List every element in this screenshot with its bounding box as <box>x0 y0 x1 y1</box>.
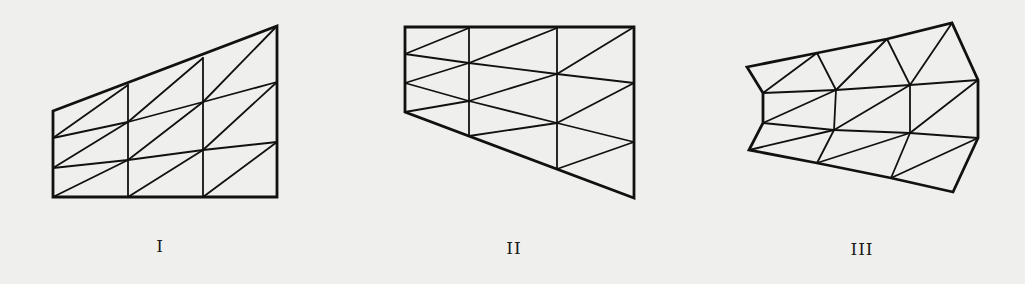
mesh-edge <box>887 39 910 85</box>
mesh-edge <box>469 63 557 74</box>
mesh-edge <box>469 101 557 123</box>
mesh-edge <box>817 53 836 90</box>
mesh-edge <box>749 130 834 150</box>
mesh-edge <box>834 85 910 130</box>
mesh-edge <box>203 142 277 150</box>
mesh-edge <box>469 123 557 136</box>
figure-canvas: I II III <box>0 0 1025 284</box>
mesh-edge <box>469 28 557 63</box>
mesh-edge <box>910 133 978 138</box>
panel-2-label: II <box>506 238 521 258</box>
mesh-edge <box>834 130 910 133</box>
mesh-edge <box>763 90 836 123</box>
panel-1-label: I <box>156 236 164 256</box>
mesh-edge <box>910 80 978 85</box>
mesh-edge <box>203 26 277 102</box>
mesh-edge <box>405 28 469 54</box>
mesh-edge <box>834 90 836 130</box>
mesh-edge <box>891 138 978 178</box>
mesh-edge <box>405 54 469 63</box>
panel-2-boundary <box>405 27 634 198</box>
mesh-edge <box>128 150 203 197</box>
panel-3-label: III <box>850 239 873 259</box>
mesh-edge <box>557 27 634 74</box>
panel-1-mesh <box>53 26 277 197</box>
mesh-edge <box>557 123 634 142</box>
mesh-edge <box>405 101 469 112</box>
mesh-edge <box>405 83 469 101</box>
mesh-edge <box>836 85 910 90</box>
mesh-edge <box>53 160 128 197</box>
mesh-edge <box>763 90 836 93</box>
mesh-edge <box>405 63 469 83</box>
mesh-edge <box>203 142 277 197</box>
mesh-edge <box>469 74 557 101</box>
mesh-edge <box>557 142 634 169</box>
mesh-edge <box>557 74 634 83</box>
mesh-edge <box>763 123 834 130</box>
mesh-edge <box>910 80 978 133</box>
panel-2-mesh <box>405 27 634 198</box>
mesh-edge <box>557 83 634 123</box>
panel-3-mesh <box>747 23 978 192</box>
